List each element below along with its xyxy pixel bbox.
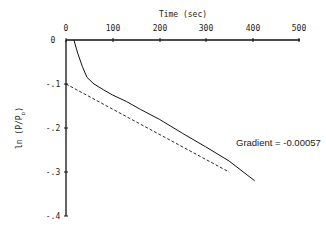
svg-text:ln (P/Po): ln (P/Po) — [15, 107, 26, 149]
x-tick-label: 100 — [106, 24, 121, 33]
gradient-annotation: Gradient = -0.00057 — [236, 137, 321, 148]
x-tick-label: 400 — [246, 24, 261, 33]
y-tick-label: -.3 — [46, 168, 61, 177]
x-tick-label: 200 — [153, 24, 168, 33]
x-tick-label: 500 — [292, 24, 307, 33]
x-tick-label: 300 — [199, 24, 214, 33]
y-tick-label: -.1 — [46, 80, 61, 89]
measured-line — [74, 40, 255, 181]
y-tick-label: -.2 — [46, 124, 61, 133]
y-tick-labels: 0 -.1 -.2 -.3 -.4 — [46, 36, 61, 221]
chart: Time (sec) 0 100 200 300 400 500 0 -.1 -… — [0, 0, 326, 240]
x-tick-label: 0 — [64, 24, 69, 33]
linear-fit-dashed — [66, 84, 229, 172]
x-tick-labels: 0 100 200 300 400 500 — [64, 24, 307, 33]
x-axis-title: Time (sec) — [159, 10, 207, 19]
y-tick-label: 0 — [51, 36, 56, 45]
y-tick-label: -.4 — [46, 212, 61, 221]
y-axis-title: ln (P/Po) — [15, 107, 26, 149]
